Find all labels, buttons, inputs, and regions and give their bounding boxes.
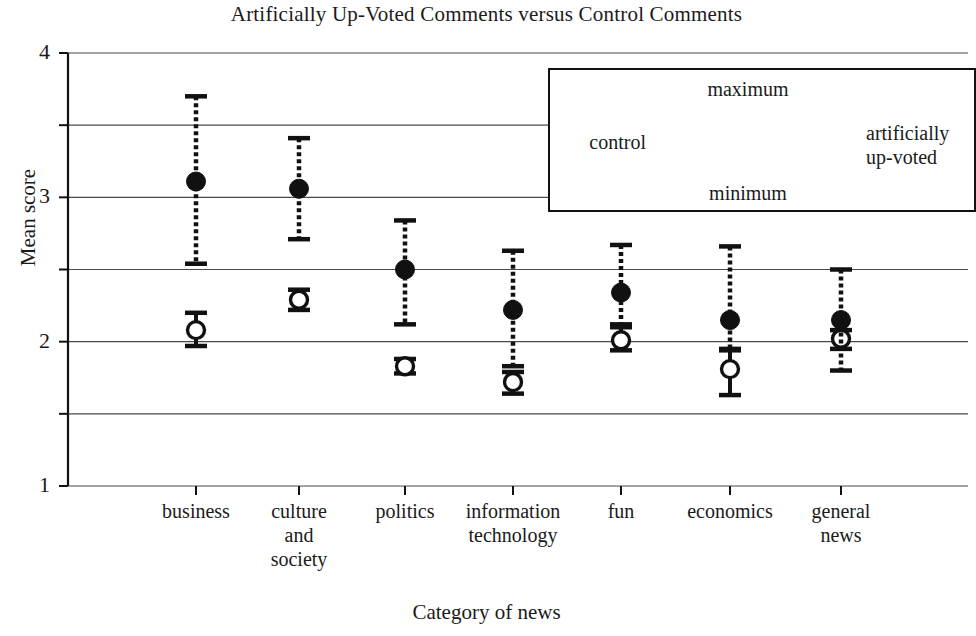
x-tick-label-line: and [224,523,374,547]
control-data-point[interactable] [722,361,739,378]
x-tick-label-line: general [766,499,916,523]
x-tick-label: generalnews [766,499,916,547]
control-data-point[interactable] [397,358,414,375]
legend-control-label: control [560,131,646,153]
legend-minimum-label: minimum [700,182,796,204]
control-data-point[interactable] [613,332,630,349]
control-data-point[interactable] [505,374,522,391]
x-tick-label-line: technology [438,523,588,547]
y-tick-label: 1 [10,474,50,496]
upvoted-data-point[interactable] [832,311,851,330]
legend-maximum-label: maximum [700,78,796,100]
control-data-point[interactable] [188,322,205,339]
x-tick-label-line: news [766,523,916,547]
upvoted-data-point[interactable] [396,260,415,279]
upvoted-data-point[interactable] [187,172,206,191]
upvoted-data-point[interactable] [504,300,523,319]
control-data-point[interactable] [291,291,308,308]
legend-upvoted-label-line1: artificially [866,122,976,144]
x-tick-label-line: society [224,547,374,571]
upvoted-data-point[interactable] [612,283,631,302]
y-tick-label: 4 [10,41,50,63]
y-tick-label: 3 [10,185,50,207]
legend-upvoted-label-line2: up-voted [866,146,976,168]
upvoted-data-point[interactable] [290,179,309,198]
y-tick-label: 2 [10,330,50,352]
upvoted-data-point[interactable] [721,311,740,330]
